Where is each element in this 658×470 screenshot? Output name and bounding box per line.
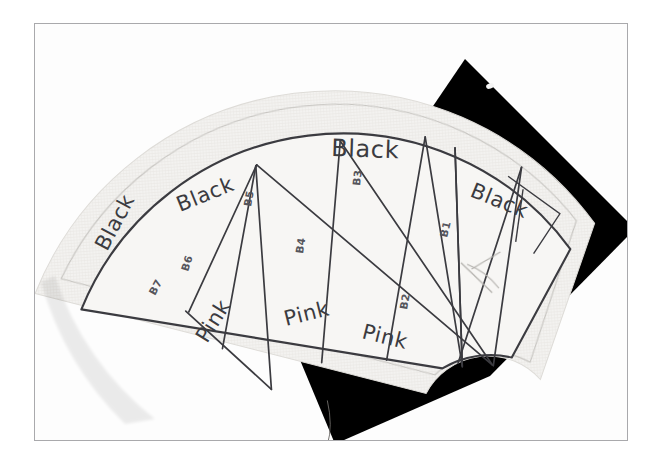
wedge-code-label-b4: B4: [293, 237, 307, 255]
photo-surface: Black B7 B6 Pink Black B5 B4 Pink Black: [35, 24, 627, 440]
wedge-code-label-b3: B3: [350, 169, 364, 186]
photo-scene: Black B7 B6 Pink Black B5 B4 Pink Black: [0, 0, 658, 470]
photo-frame: Black B7 B6 Pink Black B5 B4 Pink Black: [34, 23, 628, 441]
wedge-fabric-label-b3: Black: [331, 134, 400, 164]
fan-pattern-illustration: Black B7 B6 Pink Black B5 B4 Pink Black: [35, 24, 627, 440]
